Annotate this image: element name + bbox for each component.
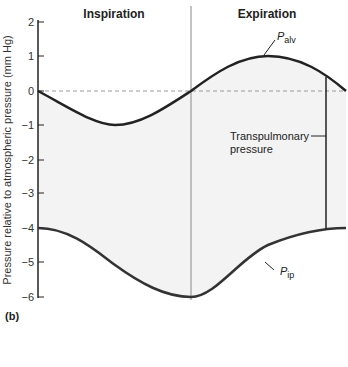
phase-label-inspiration: Inspiration <box>83 7 144 21</box>
svg-text:−6: −6 <box>21 291 34 303</box>
svg-text:−5: −5 <box>21 256 34 268</box>
svg-text:−3: −3 <box>21 187 34 199</box>
y-ticks <box>38 22 44 297</box>
svg-text:0: 0 <box>28 85 34 97</box>
y-axis-label: Pressure relative to atmospheric pressur… <box>1 35 13 284</box>
svg-text:−4: −4 <box>21 222 34 234</box>
y-tick-labels: 2 1 0 −1 −2 −3 −4 −5 −6 <box>21 16 34 303</box>
p-ip-leader <box>265 262 274 270</box>
p-ip-label: Pip <box>280 265 294 280</box>
transpulmonary-label-line2: pressure <box>230 143 273 155</box>
svg-text:1: 1 <box>28 50 34 62</box>
p-alv-label: Palv <box>277 30 296 45</box>
svg-text:−2: −2 <box>21 154 34 166</box>
p-alv-leader <box>264 40 275 55</box>
transpulmonary-label: Transpulmonary <box>230 130 310 142</box>
svg-text:2: 2 <box>28 16 34 28</box>
transpulmonary-fill-area <box>38 56 346 297</box>
phase-label-expiration: Expiration <box>238 7 297 21</box>
panel-label: (b) <box>5 310 19 322</box>
pressure-chart: 2 1 0 −1 −2 −3 −4 −5 −6 Pressure relativ… <box>0 0 348 367</box>
svg-text:−1: −1 <box>21 119 34 131</box>
